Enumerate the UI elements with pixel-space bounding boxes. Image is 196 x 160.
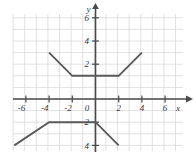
axis-lines <box>13 9 186 152</box>
axis-names: 0 x y <box>85 4 180 113</box>
axis-tick-labels: -6 -4 -2 2 4 6 6 4 2 2 4 <box>18 13 168 151</box>
y-tick-label-6: 6 <box>85 13 90 23</box>
x-tick-label--2: -2 <box>64 103 72 113</box>
y-axis-name-label: y <box>86 4 91 14</box>
x-tick-label-6: 6 <box>163 103 168 113</box>
x-tick-label-2: 2 <box>116 103 121 113</box>
x-tick-label--6: -6 <box>18 103 26 113</box>
graph-figure: -6 -4 -2 2 4 6 6 4 2 2 4 0 x y <box>0 0 196 160</box>
y-tick-label-4: 4 <box>85 36 90 46</box>
x-axis-arrow-icon <box>186 96 193 103</box>
y-tick-label-2: 2 <box>85 59 90 69</box>
y-tick-label--2: 2 <box>85 117 90 127</box>
x-axis-name-label: x <box>175 103 180 113</box>
origin-label: 0 <box>85 103 90 113</box>
coordinate-plane-svg: -6 -4 -2 2 4 6 6 4 2 2 4 0 x y <box>0 0 196 160</box>
y-axis-arrow-icon <box>92 3 99 9</box>
grid-lines <box>13 14 183 151</box>
y-tick-label--4: 4 <box>85 141 90 151</box>
x-tick-label-4: 4 <box>140 103 145 113</box>
x-tick-label--4: -4 <box>41 103 49 113</box>
